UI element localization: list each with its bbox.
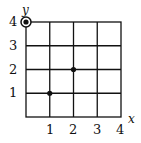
y-tick-3: 3 xyxy=(9,38,17,53)
point-2-2 xyxy=(71,67,76,72)
x-tick-3: 3 xyxy=(93,122,101,137)
y-tick-2: 2 xyxy=(9,62,17,77)
x-axis-label: x xyxy=(128,112,135,126)
x-tick-1: 1 xyxy=(46,122,54,137)
y-tick-1: 1 xyxy=(9,85,17,100)
y-axis-label: y xyxy=(21,3,29,17)
x-tick-2: 2 xyxy=(69,122,77,137)
y-tick-4: 4 xyxy=(9,14,17,29)
coordinate-grid-diagram: 4 3 2 1 1 2 3 4 y x xyxy=(0,0,141,143)
circled-point-0-4 xyxy=(21,17,31,27)
x-tick-4: 4 xyxy=(116,122,124,137)
point-1-1 xyxy=(47,91,52,96)
